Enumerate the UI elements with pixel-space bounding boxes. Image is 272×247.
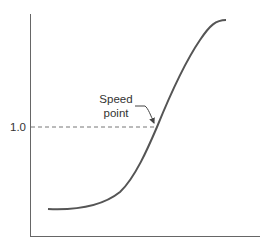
y-tick-label: 1.0 [10,121,26,133]
sigmoid-curve [48,20,226,209]
annotation-arrow [135,106,154,123]
annotation-speed: Speed [99,93,132,105]
speed-point-diagram: 1.0 Speed point [0,0,272,247]
annotation-point: point [104,107,130,119]
